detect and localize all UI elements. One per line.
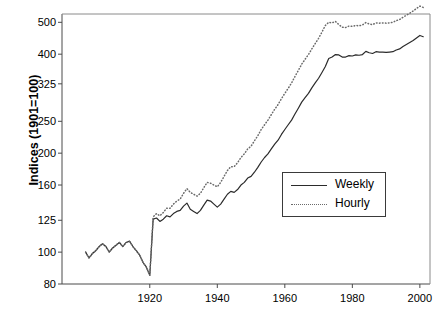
x-tick-label: 1920 <box>138 292 162 304</box>
series-line-hourly <box>86 6 424 275</box>
data-series-layer <box>86 6 424 275</box>
plot-area <box>0 0 443 317</box>
y-tick-label: 200 <box>14 147 56 159</box>
series-line-weekly <box>86 35 424 275</box>
legend-label-hourly: Hourly <box>335 196 370 210</box>
y-tick-label: 250 <box>14 115 56 127</box>
chart-legend: Weekly Hourly <box>282 172 386 217</box>
legend-item-weekly: Weekly <box>291 177 383 195</box>
x-tick-label: 1980 <box>340 292 364 304</box>
y-tick-label: 500 <box>14 16 56 28</box>
x-tick-marks <box>150 284 420 288</box>
legend-label-weekly: Weekly <box>335 177 374 191</box>
x-tick-label: 1940 <box>205 292 229 304</box>
legend-swatch-solid-icon <box>291 185 327 188</box>
legend-item-hourly: Hourly <box>291 196 383 214</box>
y-tick-label: 160 <box>14 179 56 191</box>
y-tick-marks <box>58 22 62 284</box>
y-tick-label: 400 <box>14 48 56 60</box>
y-tick-label: 100 <box>14 246 56 258</box>
x-tick-label: 2000 <box>408 292 432 304</box>
y-tick-label: 80 <box>14 278 56 290</box>
legend-swatch-dotted-icon <box>291 204 327 207</box>
y-tick-label: 125 <box>14 214 56 226</box>
chart-figure: Indices (1901=100) 801001251602002503254… <box>0 0 443 317</box>
y-tick-label: 325 <box>14 78 56 90</box>
x-tick-label: 1960 <box>273 292 297 304</box>
